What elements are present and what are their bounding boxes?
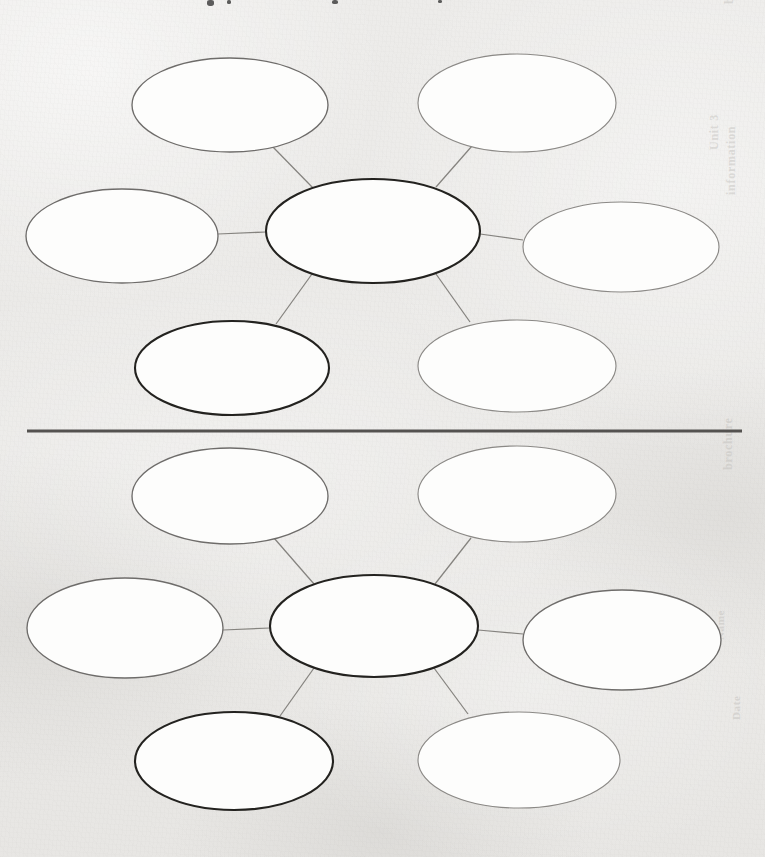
connector-center-to-mid-left <box>218 232 266 234</box>
satellite-oval-bottom-left[interactable] <box>135 712 333 810</box>
connector-center-to-bottom-right <box>436 274 470 322</box>
diagram-layer <box>0 0 765 857</box>
concept-map-bottom <box>27 446 721 810</box>
connector-center-to-top-right <box>435 538 471 584</box>
satellite-oval-top-left[interactable] <box>132 448 328 544</box>
worksheet-page: brochureUnit 3informationbrochureNameDat… <box>0 0 765 857</box>
satellite-oval-mid-right[interactable] <box>523 202 719 292</box>
center-oval[interactable] <box>270 575 478 677</box>
satellite-oval-mid-right[interactable] <box>523 590 721 690</box>
connector-center-to-bottom-right <box>434 668 468 714</box>
center-oval[interactable] <box>266 179 480 283</box>
satellite-oval-top-left[interactable] <box>132 58 328 152</box>
satellite-oval-mid-left[interactable] <box>26 189 218 283</box>
connector-center-to-top-left <box>274 538 314 584</box>
satellite-oval-mid-left[interactable] <box>27 578 223 678</box>
satellite-oval-bottom-right[interactable] <box>418 320 616 412</box>
connector-center-to-bottom-left <box>280 668 314 716</box>
connector-center-to-bottom-left <box>276 274 312 324</box>
satellite-oval-bottom-right[interactable] <box>418 712 620 808</box>
satellite-oval-top-right[interactable] <box>418 446 616 542</box>
connector-center-to-mid-right <box>480 234 523 240</box>
connector-center-to-top-right <box>436 146 472 187</box>
concept-map-top <box>26 54 719 415</box>
connector-center-to-mid-left <box>223 628 270 630</box>
connector-center-to-top-left <box>272 146 313 188</box>
satellite-oval-top-right[interactable] <box>418 54 616 152</box>
connector-center-to-mid-right <box>478 630 523 634</box>
satellite-oval-bottom-left[interactable] <box>135 321 329 415</box>
